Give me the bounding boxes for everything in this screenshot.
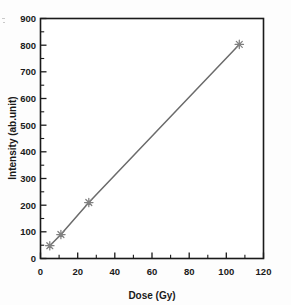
x-tick-labels: 0 20 40 60 80 100 120 — [38, 266, 272, 277]
x-tick-label: 100 — [218, 266, 234, 277]
star-marker-icon — [85, 198, 93, 206]
x-tick-label: 80 — [184, 266, 195, 277]
y-tick-label: 600 — [20, 93, 36, 104]
y-tick-label: 800 — [20, 40, 36, 51]
x-axis-title: Dose (Gy) — [128, 290, 175, 301]
line-chart: 0 100 200 300 400 500 600 700 800 900 0 … — [0, 0, 291, 305]
y-tick-labels: 0 100 200 300 400 500 600 700 800 900 — [20, 13, 36, 264]
y-tick-label: 100 — [20, 226, 36, 237]
star-marker-icon — [46, 242, 54, 250]
x-tick-label: 0 — [38, 266, 43, 277]
y-tick-label: 200 — [20, 200, 36, 211]
y-tick-label: 0 — [31, 253, 36, 264]
y-tick-label: 900 — [20, 13, 36, 24]
x-tick-label: 120 — [256, 266, 272, 277]
y-tick-label: 500 — [20, 120, 36, 131]
y-tick-label: 300 — [20, 173, 36, 184]
figure-canvas: 0 100 200 300 400 500 600 700 800 900 0 … — [0, 0, 291, 305]
y-tick-label: 700 — [20, 66, 36, 77]
y-tick-label: 400 — [20, 146, 36, 157]
star-marker-icon — [57, 230, 65, 238]
y-axis-title: Intensity (ab.unit) — [7, 96, 18, 179]
star-marker-icon — [235, 40, 243, 48]
x-tick-label: 40 — [110, 266, 121, 277]
x-tick-label: 60 — [147, 266, 158, 277]
x-tick-label: 20 — [72, 266, 83, 277]
